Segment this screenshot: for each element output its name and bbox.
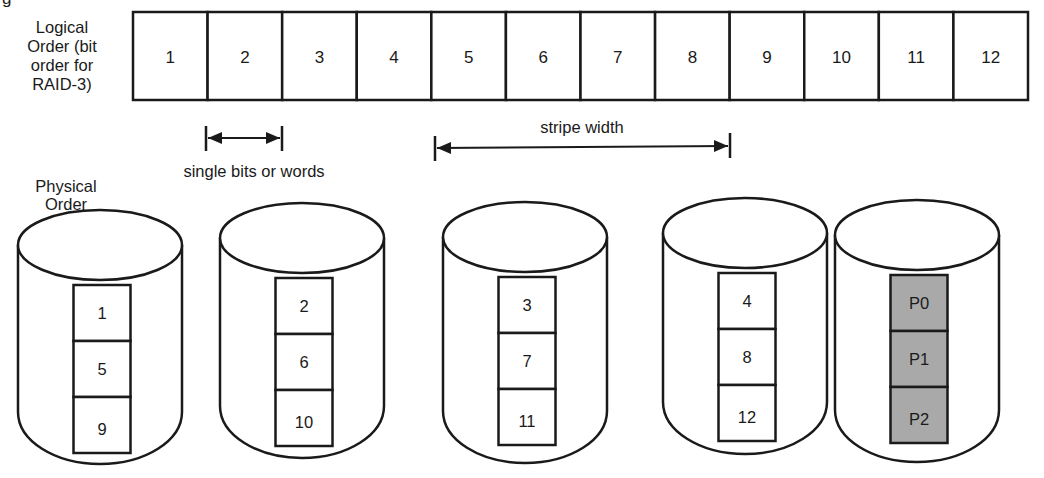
raid3-diagram: g Logical Order (bit order for RAID-3) 1… [0, 0, 1044, 478]
disk-1: 159 [18, 210, 182, 464]
stripe-width-label: stripe width [540, 118, 623, 136]
block-label: 7 [522, 352, 531, 370]
block-label: 2 [299, 297, 308, 315]
block-label: 5 [97, 360, 106, 378]
block-label: 12 [738, 408, 756, 426]
logical-order-label: Logical Order (bit order for RAID-3) [27, 18, 97, 93]
disk-top [663, 198, 827, 268]
physical-disks: 159261037114812P0P1P2 [18, 198, 999, 464]
parity-block: P2 [891, 387, 948, 443]
data-block: 4 [719, 273, 776, 329]
data-block: 7 [499, 333, 556, 389]
stripe-width-arrow [435, 133, 730, 161]
logical-cell: 6 [506, 12, 581, 100]
block-label: 1 [97, 304, 106, 322]
block-label: 9 [97, 420, 106, 438]
data-block: 3 [499, 277, 556, 333]
logical-cell: 5 [431, 12, 506, 100]
parity-block: P0 [891, 275, 948, 331]
block-label: P2 [909, 410, 929, 428]
logical-cell: 8 [655, 12, 730, 100]
block-label: 11 [518, 412, 535, 430]
logical-cell: 7 [581, 12, 656, 100]
data-block: 11 [499, 389, 556, 445]
data-block: 1 [74, 285, 131, 341]
parity-disk: P0P1P2 [835, 200, 999, 462]
logical-cell: 10 [804, 12, 879, 100]
data-block: 9 [74, 397, 131, 453]
block-label: 8 [742, 348, 751, 366]
physical-order-label: Physical Order [35, 177, 96, 213]
logical-cell-label: 10 [832, 48, 851, 67]
disk-2: 2610 [220, 203, 384, 458]
single-unit-arrow-head-right [266, 132, 280, 144]
data-block: 10 [276, 390, 333, 446]
disk-top [18, 210, 182, 280]
logical-cell-label: 3 [315, 48, 324, 67]
logical-cell-label: 1 [166, 48, 175, 67]
logical-cell: 2 [208, 12, 283, 100]
block-label: 10 [295, 413, 313, 431]
data-block: 5 [74, 341, 131, 397]
logical-cell-label: 9 [762, 48, 771, 67]
logical-cell: 3 [282, 12, 357, 100]
disk-top [220, 203, 384, 273]
disk-4: 4812 [663, 198, 827, 454]
data-block: 8 [719, 329, 776, 385]
block-label: P1 [909, 350, 929, 368]
block-label: 6 [299, 353, 308, 371]
block-label: 3 [522, 296, 531, 314]
disk-3: 3711 [443, 202, 607, 463]
logical-cell: 12 [953, 12, 1028, 100]
logical-cell: 9 [730, 12, 805, 100]
logical-cell-label: 8 [688, 48, 697, 67]
stripe-width-arrow-shaft [437, 146, 728, 148]
disk-top [835, 200, 999, 270]
logical-cell-label: 7 [613, 48, 622, 67]
stripe-width-arrow-head-left [437, 142, 451, 154]
logical-cell: 1 [133, 12, 208, 100]
parity-block: P1 [891, 331, 948, 387]
logical-cell: 4 [357, 12, 432, 100]
title-fragment: g [2, 0, 11, 8]
logical-order-row: 123456789101112 [133, 12, 1028, 100]
data-block: 2 [276, 278, 333, 334]
data-block: 6 [276, 334, 333, 390]
stripe-width-arrow-head-right [714, 140, 728, 152]
block-label: 4 [742, 292, 751, 310]
data-block: 12 [719, 385, 776, 441]
logical-cell-label: 6 [538, 48, 547, 67]
logical-cell-label: 2 [240, 48, 249, 67]
logical-cell: 11 [879, 12, 954, 100]
logical-order-label-line: Order (bit [27, 37, 97, 55]
block-label: P0 [909, 294, 929, 312]
physical-order-label-line: Physical [35, 177, 96, 195]
single-unit-arrow [206, 126, 282, 151]
single-unit-arrow-head-left [208, 132, 222, 144]
logical-cell-label: 4 [389, 48, 398, 67]
logical-order-label-line: RAID-3) [32, 75, 92, 93]
disk-top [443, 202, 607, 272]
logical-cell-label: 5 [464, 48, 473, 67]
logical-cell-label: 12 [981, 48, 1000, 67]
logical-cell-label: 11 [907, 48, 925, 67]
logical-order-label-line: order for [31, 56, 94, 74]
logical-order-label-line: Logical [36, 18, 88, 36]
single-unit-label: single bits or words [183, 162, 324, 180]
